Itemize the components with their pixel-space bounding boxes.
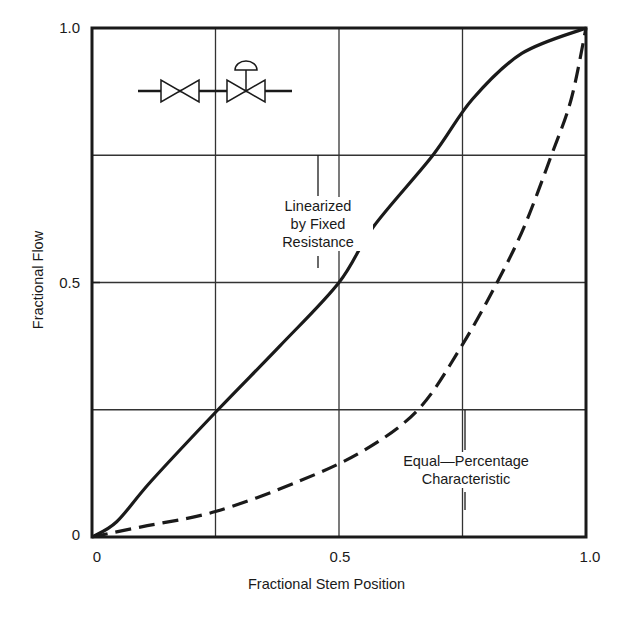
x-tick-0-5: 0.5 <box>320 548 360 565</box>
y-axis-label: Fractional Flow <box>30 225 46 335</box>
annotation-equal-percentage: Equal—Percentage Characteristic <box>395 452 537 488</box>
y-tick-0: 0 <box>40 526 80 543</box>
annotation-line: Equal—Percentage <box>395 452 537 470</box>
annotation-line: by Fixed <box>263 215 373 233</box>
y-tick-0-5: 0.5 <box>40 274 80 291</box>
chart-canvas <box>0 0 622 618</box>
x-tick-0: 0 <box>77 548 117 565</box>
annotation-linearized: Linearized by Fixed Resistance <box>263 197 373 251</box>
x-tick-1: 1.0 <box>570 548 610 565</box>
annotation-line: Linearized <box>263 197 373 215</box>
annotation-line: Characteristic <box>395 470 537 488</box>
y-tick-1: 1.0 <box>40 19 80 36</box>
x-axis-label: Fractional Stem Position <box>248 576 405 592</box>
annotation-line: Resistance <box>263 233 373 251</box>
